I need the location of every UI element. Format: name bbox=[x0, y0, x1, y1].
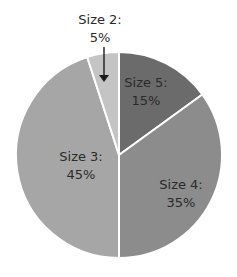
pie-slices bbox=[16, 52, 222, 258]
pie-chart: Size 5:15%Size 4:35%Size 3:45%Size 2:5% bbox=[0, 0, 237, 277]
data-label: Size 2:5% bbox=[78, 12, 121, 45]
